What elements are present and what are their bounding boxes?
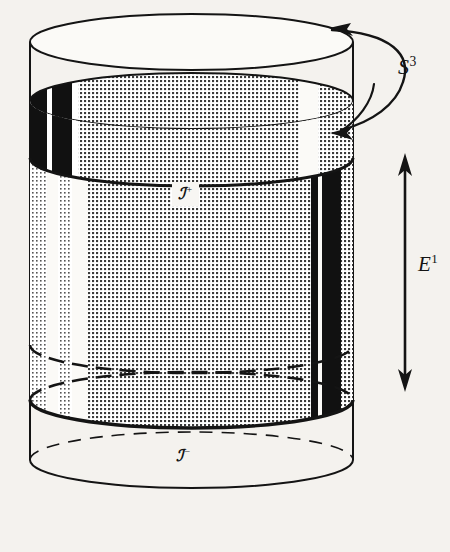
label-s3: S3 [398,55,416,78]
figure-canvas [0,0,450,552]
label-e1-superscript: 1 [431,251,438,266]
label-scri-minus-superscript: − [185,446,191,457]
label-scri-minus-text: ℐ [176,446,184,465]
label-s3-text: S [398,54,409,79]
label-e1: E1 [418,252,438,275]
conformal-cylinder-figure: S3 E1 ℐ+ ℐ− [0,0,450,552]
label-scri-minus: ℐ− [172,446,194,465]
label-scri-plus-superscript: + [187,184,193,195]
cylinder-top-disc [30,14,353,70]
label-scri-plus: ℐ+ [172,182,199,206]
label-scri-plus-text: ℐ [178,184,186,203]
label-s3-superscript: 3 [410,54,417,69]
label-e1-text: E [418,252,431,276]
